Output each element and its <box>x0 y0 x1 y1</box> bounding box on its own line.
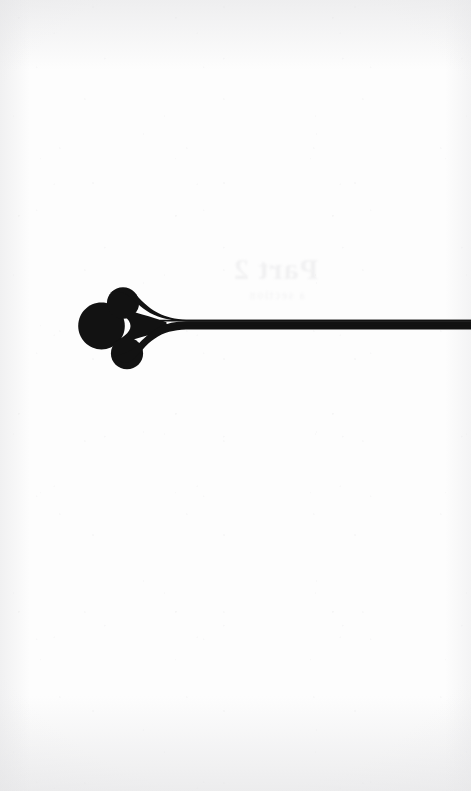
fleuron-upper-lobe-sweep <box>110 289 471 321</box>
fleuron-lower-lobe-sweep <box>114 321 471 362</box>
scanned-page: Part 2 a section <box>0 0 471 791</box>
fleuron-ornament <box>78 287 471 369</box>
double-rule-lower-line <box>160 324 471 326</box>
double-rule-upper-line <box>160 320 471 322</box>
headpiece-svg <box>0 0 471 791</box>
headpiece-ornament-group <box>0 0 471 791</box>
